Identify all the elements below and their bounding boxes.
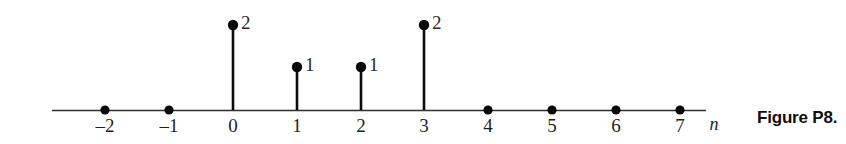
stem-sample-n-4: 4 <box>483 105 493 136</box>
tick-label-n-6: 6 <box>611 115 621 136</box>
stem-sample-n-5: 5 <box>547 105 557 136</box>
figure-container: –2 –1 2 0 1 1 1 2 <box>0 0 846 144</box>
stem-sample-n-6: 6 <box>611 105 621 136</box>
tick-label-n-7: 7 <box>675 115 685 136</box>
tick-label-n-5: 5 <box>547 115 557 136</box>
value-label-n-0: 2 <box>241 12 251 33</box>
stem-sample-n-0: 2 0 <box>228 12 251 136</box>
value-label-n-3: 2 <box>432 12 442 33</box>
sample-dot <box>547 105 556 114</box>
stem-sample-n-1: 1 1 <box>292 54 315 136</box>
stem-sample-n-7: 7 <box>675 105 685 136</box>
tick-label-n-0: 0 <box>228 115 238 136</box>
sample-dot <box>356 62 366 72</box>
sample-dot <box>611 105 620 114</box>
tick-label-n-minus1: –1 <box>159 115 179 136</box>
sample-dot <box>483 105 492 114</box>
figure-caption: Figure P8. <box>757 108 837 128</box>
sample-dot <box>100 105 109 114</box>
sample-dot <box>292 62 302 72</box>
stem-plot: –2 –1 2 0 1 1 1 2 <box>0 0 846 144</box>
tick-label-n-2: 2 <box>356 115 366 136</box>
tick-label-n-4: 4 <box>483 115 493 136</box>
tick-label-n-minus2: –2 <box>95 115 115 136</box>
axis-variable-label: n <box>710 114 719 134</box>
value-label-n-2: 1 <box>369 54 379 75</box>
tick-label-n-3: 3 <box>419 115 429 136</box>
stem-sample-n-3: 2 3 <box>419 12 442 136</box>
sample-dot <box>164 105 173 114</box>
sample-dot <box>228 20 238 30</box>
stem-sample-n-2: 1 2 <box>356 54 379 136</box>
tick-label-n-1: 1 <box>292 115 302 136</box>
sample-dot <box>675 105 684 114</box>
sample-dot <box>419 20 429 30</box>
value-label-n-1: 1 <box>305 54 315 75</box>
